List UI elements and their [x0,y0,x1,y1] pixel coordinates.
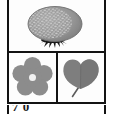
berry-fruit-icon [9,0,104,51]
panel-flower [9,53,58,102]
flower-icon [9,53,56,102]
caption-strip: 7 0 [7,105,106,114]
panel-leaf [58,53,104,102]
caption-text: 7 0 [12,105,106,113]
figure-frame [7,0,106,104]
panel-row-bottom [9,53,104,102]
panel-fruit [9,0,104,53]
flower-center [29,74,36,81]
figure-root: 7 0 [0,0,114,114]
leaf-shading [81,59,99,89]
leaf-icon [58,53,104,102]
